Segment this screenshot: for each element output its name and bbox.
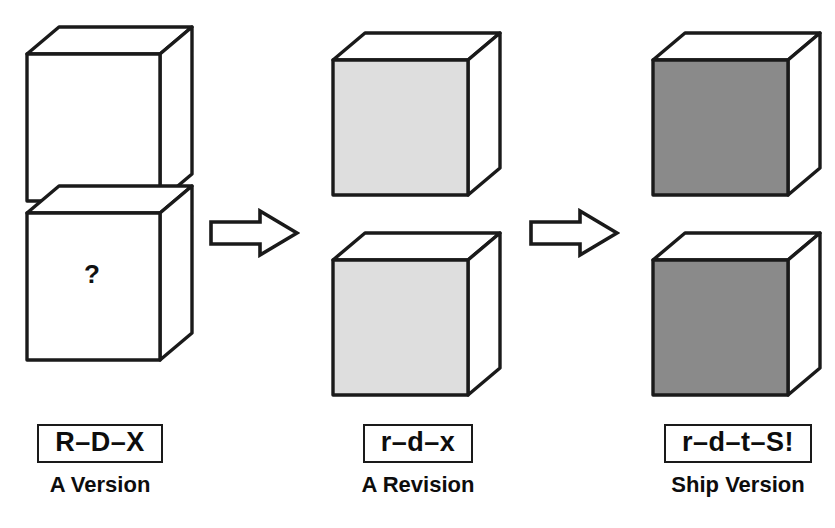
cube-side-face — [788, 33, 820, 195]
cube-bottom-column-3 — [648, 228, 828, 403]
label-group-column-2: r–d–x A Revision — [320, 424, 516, 498]
cube-side-face — [160, 27, 192, 201]
cube-side-face — [160, 186, 192, 360]
code-text-column-3: r–d–t–S! — [682, 427, 794, 457]
cube-top-column-2 — [328, 28, 508, 203]
label-group-column-3: r–d–t–S! Ship Version — [640, 424, 835, 498]
cube-front-face — [333, 60, 468, 195]
question-mark-label: ? — [84, 261, 100, 287]
code-box-column-3: r–d–t–S! — [664, 424, 812, 463]
cube-bottom-column-2 — [328, 228, 508, 403]
label-group-column-1: R–D–X A Version — [0, 424, 200, 498]
cube-front-face — [27, 54, 160, 201]
cube-front-face — [653, 60, 788, 195]
code-box-column-2: r–d–x — [363, 424, 474, 463]
column-a-version: ? R–D–X A Version — [0, 0, 300, 528]
caption-column-3: Ship Version — [640, 472, 835, 498]
cube-side-face — [468, 33, 500, 195]
code-box-column-1: R–D–X — [37, 424, 163, 463]
arrow-1-right-arrow-icon — [208, 208, 300, 258]
cube-front-face — [653, 260, 788, 395]
cube-side-face — [788, 233, 820, 395]
code-text-column-2: r–d–x — [381, 427, 456, 457]
cube-top-column-3 — [648, 28, 828, 203]
column-a-revision: r–d–x A Revision — [320, 0, 620, 528]
column-ship-version: r–d–t–S! Ship Version — [640, 0, 835, 528]
cube-top-column-1 — [22, 22, 197, 207]
cube-side-face — [468, 233, 500, 395]
cube-front-face — [333, 260, 468, 395]
caption-column-1: A Version — [0, 472, 200, 498]
code-text-column-1: R–D–X — [55, 427, 145, 457]
arrow-2-right-arrow-icon — [528, 208, 620, 258]
diagram-canvas: ? R–D–X A Version — [0, 0, 835, 528]
caption-column-2: A Revision — [320, 472, 516, 498]
cube-bottom-column-1: ? — [22, 185, 197, 385]
